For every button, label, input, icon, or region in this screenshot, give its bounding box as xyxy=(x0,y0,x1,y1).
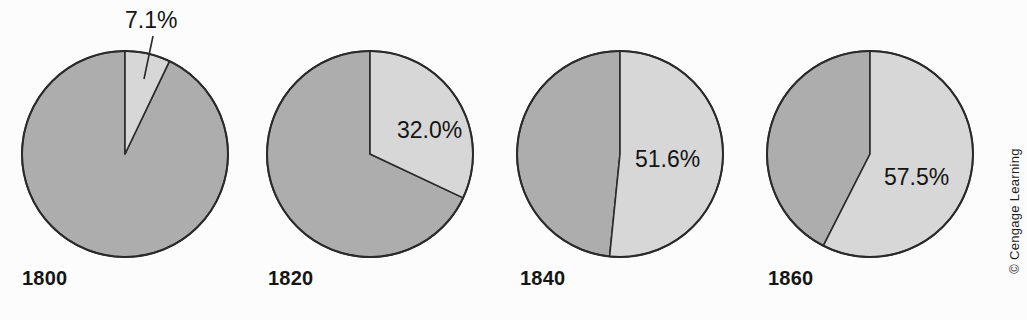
pie-chart-figure: 7.1% 1800 32.0% 1820 51.6% 1840 xyxy=(0,0,1027,320)
copyright-credit-text: © Cengage Learning xyxy=(1007,148,1022,274)
pie-1820-percent-label: 32.0% xyxy=(397,117,462,144)
pie-panel-1800: 7.1% 1800 xyxy=(0,0,250,320)
pie-1840-slice-remaining xyxy=(517,51,620,256)
pie-1840-percent-label: 51.6% xyxy=(635,146,700,173)
pie-1820-slices xyxy=(267,51,473,257)
pie-1840-year-label: 1840 xyxy=(520,267,565,290)
pie-panel-1860: 57.5% 1860 xyxy=(745,0,995,320)
pie-panel-1820: 32.0% 1820 xyxy=(245,0,495,320)
pie-1860-slices xyxy=(767,51,973,257)
pie-1800-percent-label: 7.1% xyxy=(125,7,177,34)
copyright-credit: © Cengage Learning xyxy=(1001,116,1027,306)
pie-1820-year-label: 1820 xyxy=(268,267,313,290)
pie-1860-percent-label: 57.5% xyxy=(884,164,949,191)
pie-panel-1840: 51.6% 1840 xyxy=(495,0,745,320)
pie-1800-year-label: 1800 xyxy=(22,267,67,290)
pie-1860-year-label: 1860 xyxy=(768,267,813,290)
pie-1800-slices xyxy=(22,51,228,257)
